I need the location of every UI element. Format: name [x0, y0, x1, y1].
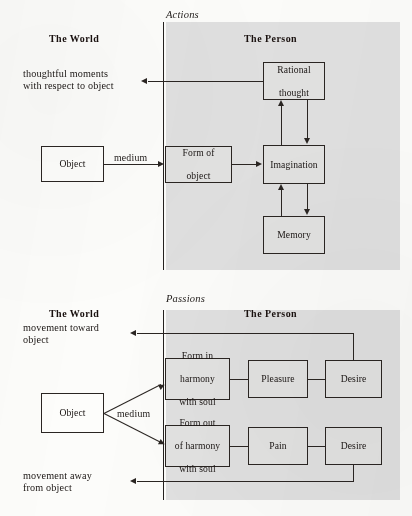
connector-object-to-form-actions: [104, 164, 160, 165]
box-form-out-of-harmony-with-soul: Form out of harmony with soul: [165, 425, 230, 467]
connector-rational-to-world: [148, 81, 264, 82]
box-imagination: Imagination: [263, 145, 325, 184]
connector-pain-to-desire-lower: [308, 446, 325, 447]
box-object-passions: Object: [41, 393, 104, 433]
box-form-out-harmony-line1: Form out: [175, 417, 221, 428]
box-rational-thought-label: Rational thought: [277, 64, 310, 98]
connector-desire-lower-to-world: [137, 481, 354, 482]
box-form-out-harmony-line3: with soul: [175, 463, 221, 474]
output-label-thoughtful-moments-line2: with respect to object: [23, 80, 114, 93]
box-object-actions: Object: [41, 146, 104, 182]
box-form-in-harmony-with-soul: Form in harmony with soul: [165, 358, 230, 400]
connector-rational-to-imagination: [307, 100, 308, 139]
box-form-in-harmony-line1: Form in: [179, 350, 215, 361]
box-rational-thought: Rational thought: [263, 62, 325, 100]
box-rational-thought-line1: Rational: [277, 64, 310, 75]
header-the-world-passions: The World: [49, 308, 99, 319]
box-desire-lower-label: Desire: [341, 440, 367, 451]
arrowhead-imagination-to-rational-icon: [278, 100, 284, 106]
box-form-of-object-label: Form of object: [183, 147, 215, 181]
box-memory-label: Memory: [277, 229, 311, 240]
box-pain: Pain: [248, 427, 308, 465]
connector-pleasure-to-desire-upper: [308, 379, 325, 380]
box-form-in-harmony-line2: harmony: [179, 373, 215, 384]
box-desire-upper-label: Desire: [341, 373, 367, 384]
connector-form-out-harmony-to-pain: [230, 446, 248, 447]
output-label-movement-toward-line1: movement toward: [23, 322, 99, 335]
output-label-movement-away-line2: from object: [23, 482, 72, 495]
box-form-out-harmony-line2: of harmony: [175, 440, 221, 451]
connector-imagination-to-rational: [281, 106, 282, 145]
connector-desire-lower-vertical: [353, 465, 354, 482]
arrowhead-rational-to-imagination-icon: [304, 138, 310, 144]
arrowhead-form-to-imagination-icon: [256, 161, 262, 167]
section-label-actions: Actions: [166, 9, 199, 20]
output-label-movement-away-line1: movement away: [23, 470, 92, 483]
box-pleasure: Pleasure: [248, 360, 308, 398]
arrowhead-memory-to-imagination-icon: [278, 184, 284, 190]
header-the-person-actions: The Person: [244, 33, 297, 44]
header-the-person-passions: The Person: [244, 308, 297, 319]
box-imagination-label: Imagination: [270, 159, 317, 170]
box-pleasure-label: Pleasure: [261, 373, 294, 384]
world-person-divider-passions: [163, 310, 164, 500]
scanned-page: Actions The World The Person thoughtful …: [0, 0, 412, 516]
box-form-of-object-line2: object: [183, 170, 215, 181]
box-form-out-harmony-label: Form out of harmony with soul: [175, 417, 221, 474]
box-form-in-harmony-line3: with soul: [179, 396, 215, 407]
arrowhead-object-to-form-actions-icon: [158, 161, 164, 167]
output-label-movement-toward-line2: object: [23, 334, 49, 347]
box-desire-upper: Desire: [325, 360, 382, 398]
box-form-in-harmony-label: Form in harmony with soul: [179, 350, 215, 407]
box-object-actions-label: Object: [59, 158, 85, 169]
header-the-world-actions: The World: [49, 33, 99, 44]
connector-imagination-to-memory: [307, 184, 308, 210]
box-pain-label: Pain: [269, 440, 286, 451]
arrowhead-movement-away-icon: [130, 478, 136, 484]
box-rational-thought-line2: thought: [277, 87, 310, 98]
arrowhead-rational-to-world-icon: [141, 78, 147, 84]
arrowhead-imagination-to-memory-icon: [304, 209, 310, 215]
connector-desire-upper-to-world: [137, 333, 354, 334]
arrowhead-movement-toward-icon: [130, 330, 136, 336]
edge-label-medium-actions: medium: [114, 152, 147, 163]
box-object-passions-label: Object: [59, 407, 85, 418]
edge-label-medium-passions: medium: [117, 408, 150, 419]
connector-form-in-harmony-to-pleasure: [230, 379, 248, 380]
box-form-of-object-line1: Form of: [183, 147, 215, 158]
box-memory: Memory: [263, 216, 325, 254]
connector-memory-to-imagination: [281, 190, 282, 216]
box-desire-lower: Desire: [325, 427, 382, 465]
output-label-thoughtful-moments-line1: thoughtful moments: [23, 68, 108, 81]
box-form-of-object: Form of object: [165, 146, 232, 183]
section-label-passions: Passions: [166, 293, 205, 304]
